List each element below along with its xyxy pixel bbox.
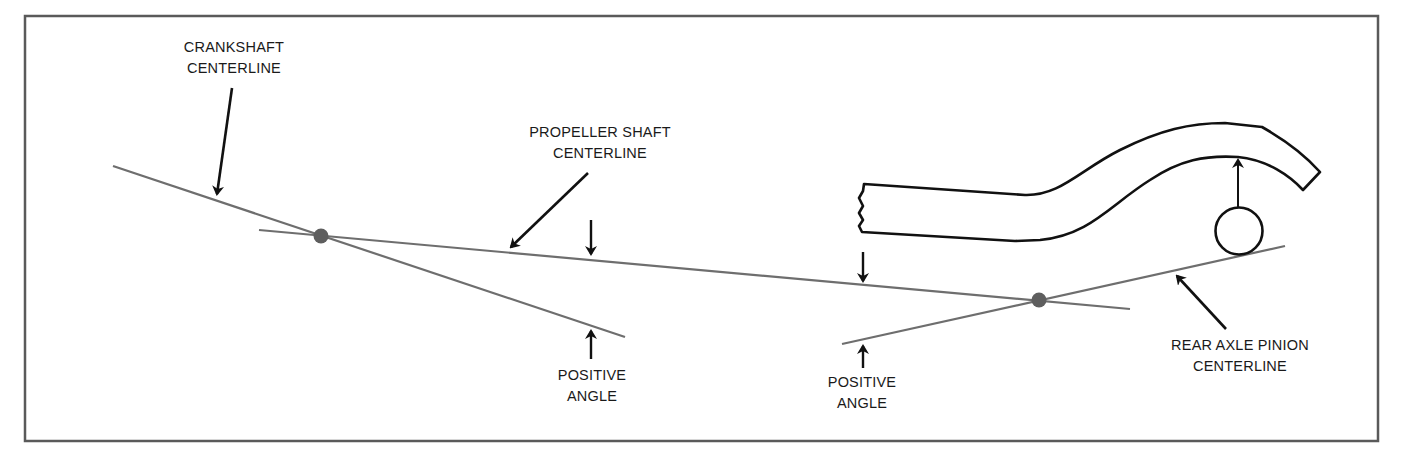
propeller-label-line1: PROPELLER SHAFT: [529, 122, 671, 143]
figure-border: [25, 16, 1378, 441]
positive-angle-right-label: POSITIVE ANGLE: [828, 372, 896, 414]
crankshaft-centerline-label: CRANKSHAFT CENTERLINE: [184, 37, 284, 79]
rear-axle-pointer-arrow-icon: [1177, 276, 1226, 329]
positive-angle-left-line2: ANGLE: [558, 386, 626, 407]
positive-angle-right-line1: POSITIVE: [828, 372, 896, 393]
positive-angle-right-line2: ANGLE: [828, 393, 896, 414]
rear-axle-label-line2: CENTERLINE: [1171, 356, 1309, 377]
propeller-pointer-arrow-icon: [511, 173, 588, 247]
positive-angle-left-line1: POSITIVE: [558, 365, 626, 386]
propeller-shaft-centerline: [259, 230, 1130, 309]
rear-u-joint-pivot: [1032, 293, 1047, 308]
rear-axle-pinion-centerline-label: REAR AXLE PINION CENTERLINE: [1171, 335, 1309, 377]
rear-axle-label-line1: REAR AXLE PINION: [1171, 335, 1309, 356]
crankshaft-centerline: [113, 166, 625, 337]
crankshaft-pointer-arrow-icon: [217, 88, 232, 194]
rear-axle-pinion-centerline: [842, 246, 1285, 344]
propeller-label-line2: CENTERLINE: [529, 143, 671, 164]
front-u-joint-pivot: [314, 229, 329, 244]
crankshaft-label-line1: CRANKSHAFT: [184, 37, 284, 58]
crankshaft-label-line2: CENTERLINE: [184, 58, 284, 79]
rear-axle-housing-circle: [1216, 208, 1263, 255]
propeller-shaft-centerline-label: PROPELLER SHAFT CENTERLINE: [529, 122, 671, 164]
positive-angle-left-label: POSITIVE ANGLE: [558, 365, 626, 407]
driveline-angle-diagram: CRANKSHAFT CENTERLINE PROPELLER SHAFT CE…: [0, 0, 1408, 457]
